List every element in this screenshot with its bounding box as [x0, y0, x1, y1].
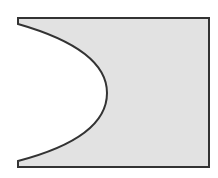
diagram-canvas [0, 0, 218, 178]
shape-figure [0, 0, 218, 178]
cutout-rectangle-shape [18, 18, 209, 167]
